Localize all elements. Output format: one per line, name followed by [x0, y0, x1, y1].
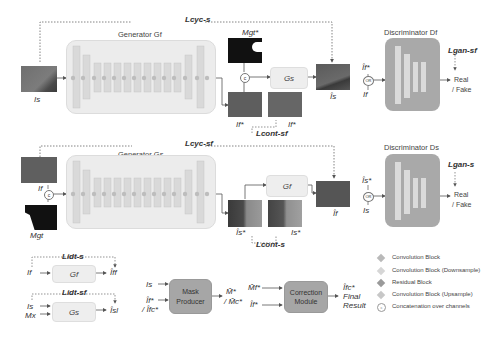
legend-conv-downsample: Convolution Block (Downsample): [392, 267, 480, 273]
concat-icon-2: c: [44, 190, 54, 200]
mp-input-if-star: Îf*: [146, 296, 154, 305]
recon-label-is-hat: Îs: [330, 92, 336, 101]
recon-label-if-hat: Îf: [333, 209, 337, 218]
idt2-output-label: Îsl: [110, 306, 118, 315]
discriminator-ds-title: Discriminator Ds: [384, 143, 439, 152]
output-image-if-star-2: [268, 92, 302, 117]
residual-block-icon: [377, 279, 385, 287]
mask-label-mgt-star: Mgt*: [242, 28, 258, 37]
input-image-if: [21, 157, 57, 183]
generator-gf-inner: Gf: [266, 175, 308, 197]
output-image-is-star-2: [268, 200, 302, 227]
loss-cyc-s: Lcyc-s: [185, 15, 210, 24]
loss-idt-sf: Lidt-sf: [62, 288, 86, 297]
unet-layers-icon: [67, 41, 215, 113]
loss-cont-s: Lcont-s: [256, 240, 285, 249]
discriminator-ds: [385, 154, 440, 227]
unet-layers-icon-2: [67, 156, 215, 228]
output-label-is-star-2: Is*: [291, 228, 300, 237]
disc-output-fake: / Fake: [452, 85, 471, 94]
legend-residual-block: Residual Block: [392, 279, 432, 285]
cm-output-ifc-star: Îfc*: [343, 283, 355, 292]
concat-legend-icon: c: [377, 303, 386, 312]
cm-output-result: Result: [343, 301, 366, 310]
generator-gf-title: Generator Gf: [118, 30, 162, 39]
mp-input-ifc-star: / Îfc*: [142, 305, 158, 314]
idt2-input-is: Is: [27, 302, 33, 311]
mp-input-is: Is: [146, 280, 152, 289]
legend-concat: Concatenation over channels: [392, 303, 470, 309]
recon-image-is-hat: [316, 64, 350, 90]
loss-gan-sf: Lgan-sf: [448, 46, 477, 55]
idt1-input-label: If: [27, 268, 31, 277]
output-image-is-star-1: [228, 200, 262, 227]
idt-generator-gf: Gf: [52, 265, 96, 283]
input-label-if: If: [38, 184, 42, 193]
input-image-is: [21, 66, 57, 92]
disc-input-top-label: Îf*: [362, 63, 370, 72]
idt1-output-label: Îff: [110, 268, 117, 277]
disc-output-real-2: Real: [454, 190, 468, 199]
loss-cont-sf: Lcont-sf: [256, 129, 288, 138]
disc-layers-icon-2: [385, 154, 440, 227]
or-icon: OR: [363, 76, 374, 86]
conv-downsample-icon: [377, 267, 385, 275]
concat-icon: c: [240, 73, 250, 83]
legend-conv-block: Convolution Block: [392, 254, 440, 260]
input-label-is: Is: [34, 95, 40, 104]
idt2-input-mx: Mx: [25, 311, 36, 320]
idt-generator-gs: Gs: [52, 302, 96, 322]
correction-module-box: Correction Module: [284, 281, 328, 313]
disc-layers-icon: [385, 38, 440, 111]
cm-input-if-star: Îf*: [250, 300, 258, 309]
mp-output-m-star: M̂*: [226, 287, 236, 296]
loss-idt-s: Lidt-s: [62, 252, 84, 261]
output-label-is-star-1: Îs*: [236, 228, 245, 237]
mask-image-mgt-star: [228, 38, 262, 63]
output-image-if-star-1: [228, 92, 262, 117]
legend-conv-upsample: Convolution Block (Upsample): [392, 291, 473, 297]
legend: Convolution Block Convolution Block (Dow…: [378, 255, 495, 315]
or-icon-2: OR: [363, 192, 374, 202]
cm-input-mf-star: M̂f*: [248, 283, 260, 292]
disc-input-bottom-label: If: [363, 90, 367, 99]
recon-image-if-hat: [316, 181, 350, 207]
generator-gs-inner: Gs: [270, 67, 308, 89]
loss-cyc-sf: Lcyc-sf: [185, 139, 213, 148]
cm-output-final: Final: [343, 292, 360, 301]
disc-input-bottom-label-2: Is: [363, 206, 369, 215]
disc-input-top-label-2: Îs*: [362, 176, 371, 185]
disc-output-real: Real: [454, 75, 468, 84]
mask-label-mgt: Mgt: [30, 231, 43, 240]
generator-gs: [66, 155, 216, 229]
generator-gf: [66, 40, 216, 114]
mp-output-mc-star: / M̂c*: [224, 297, 242, 306]
disc-output-fake-2: / Fake: [452, 200, 471, 209]
discriminator-df: [385, 38, 440, 111]
discriminator-df-title: Discriminator Df: [384, 28, 437, 37]
output-label-if-star-2: If*: [288, 120, 296, 129]
conv-upsample-icon: [377, 291, 385, 299]
conv-block-icon: [377, 254, 385, 262]
loss-gan-s: Lgan-s: [448, 160, 474, 169]
mask-producer-box: Mask Producer: [169, 279, 212, 314]
output-label-if-star-1: If*: [236, 120, 244, 129]
